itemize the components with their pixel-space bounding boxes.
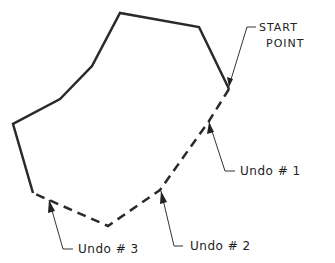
- undo-diagram: START POINT Undo # 1 Undo # 2 Undo # 3: [0, 0, 335, 263]
- start-point-leader: [227, 27, 256, 87]
- undo2-leader: [160, 191, 183, 246]
- undo3-leader: [48, 200, 73, 249]
- undo1-leader: [207, 122, 235, 171]
- start-label-line1: START: [259, 21, 298, 34]
- undo2-label: Undo # 2: [190, 239, 251, 253]
- arrowhead-icon: [207, 122, 214, 134]
- start-label-line2: POINT: [266, 37, 304, 50]
- undo3-label: Undo # 3: [78, 242, 139, 256]
- arrowhead-icon: [160, 191, 167, 204]
- dashed-undone-segments: [33, 89, 229, 226]
- undo1-label: Undo # 1: [240, 164, 301, 178]
- solid-polyline: [13, 13, 229, 193]
